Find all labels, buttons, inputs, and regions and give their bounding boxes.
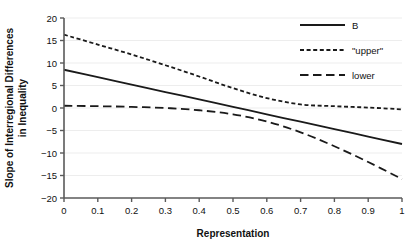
legend-label: "upper" [352, 45, 383, 56]
chart-figure: 00.10.20.30.40.50.60.70.80.91 20151050−5… [0, 0, 413, 243]
y-tick-label: −10 [41, 148, 57, 159]
x-tick-label: 0.1 [91, 205, 104, 216]
y-tick-label: −20 [41, 193, 57, 204]
x-tick-label: 0.9 [362, 205, 375, 216]
y-tick-label: 20 [46, 13, 57, 24]
x-axis-title: Representation [197, 228, 270, 239]
legend-label: lower [352, 70, 375, 81]
y-tick-label: 15 [46, 35, 57, 46]
x-tick-label: 1 [399, 205, 404, 216]
x-tick-label: 0.4 [193, 205, 206, 216]
y-tick-label: 5 [52, 80, 57, 91]
legend-label: B [352, 20, 358, 31]
x-tick-label: 0.6 [260, 205, 273, 216]
x-tick-label: 0.8 [328, 205, 341, 216]
y-tick-label: −15 [41, 170, 57, 181]
x-tick-label: 0.7 [294, 205, 307, 216]
y-tick-label: 10 [46, 58, 57, 69]
x-tick-label: 0.3 [159, 205, 172, 216]
x-tick-label: 0.5 [226, 205, 239, 216]
y-tick-label: −5 [46, 125, 57, 136]
chart-svg: 00.10.20.30.40.50.60.70.80.91 20151050−5… [0, 0, 413, 243]
y-axis-title-line1: Slope of Interregional Differences [4, 28, 15, 188]
x-tick-label: 0.2 [125, 205, 138, 216]
x-tick-label: 0 [61, 205, 66, 216]
y-axis-title-line2: in Inequality [17, 78, 28, 137]
y-tick-label: 0 [52, 103, 57, 114]
